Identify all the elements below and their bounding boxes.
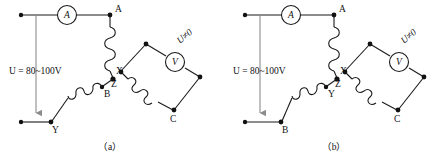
label-b-source: U = 80~100V xyxy=(233,66,286,76)
terminal-bottom-a xyxy=(19,120,23,124)
label-a-voltmeter-annotation: U≠0 xyxy=(175,27,195,46)
wire-coilby-to-y xyxy=(52,98,68,121)
wire-diamond-right-to-c-a xyxy=(174,77,200,110)
caption-b: （b） xyxy=(322,141,347,152)
node-a-c xyxy=(172,108,177,113)
wire-coilzc-to-c-a xyxy=(158,102,173,110)
wire-diamond-top-to-volt-b xyxy=(370,44,390,56)
node-a-phase-a xyxy=(108,13,113,18)
figure-canvas: A xyxy=(0,0,447,159)
label-b-x: X xyxy=(340,66,347,76)
coil-z-c xyxy=(128,78,152,105)
label-a-c: C xyxy=(170,114,176,124)
node-a-y xyxy=(49,120,54,125)
label-a-x: X xyxy=(116,66,123,76)
node-a-diamond-right xyxy=(198,75,203,80)
label-b-z: Z xyxy=(335,79,341,89)
terminal-top-a xyxy=(19,13,23,17)
label-a-y: Y xyxy=(52,125,59,135)
wire-diamond-topleft-a xyxy=(121,44,146,71)
circuit-diagram: A xyxy=(0,0,447,159)
label-b-y: Y xyxy=(328,89,335,99)
label-a-b: B xyxy=(104,89,110,99)
label-b-voltmeter-annotation: U≠0 xyxy=(399,27,419,46)
node-b-phase-a xyxy=(332,13,337,18)
wire-diamond-right-to-c-b xyxy=(398,77,424,110)
coil-y-b xyxy=(292,83,326,99)
wire-coilzc-to-c-b xyxy=(382,102,397,110)
wire-coilyb-to-b xyxy=(282,98,292,121)
coil-z-c-b xyxy=(352,78,376,105)
node-b-diamond-top xyxy=(368,42,373,47)
label-a-source: U = 80~100V xyxy=(9,66,62,76)
coil-a-x xyxy=(105,27,116,71)
label-b-c: C xyxy=(394,114,400,124)
coil-a-x-b xyxy=(329,27,340,71)
coil-b-y xyxy=(68,83,102,99)
wire-volt-to-right-a xyxy=(185,68,200,77)
node-b-c xyxy=(396,108,401,113)
label-a-phase-a: A xyxy=(115,4,122,14)
node-a-diamond-top xyxy=(144,42,149,47)
wire-diamond-top-to-volt-a xyxy=(146,44,166,56)
label-b-phase-a: A xyxy=(339,4,346,14)
wire-volt-to-right-b xyxy=(409,68,424,77)
panel-b: A V xyxy=(233,4,426,152)
label-a-z: Z xyxy=(111,79,117,89)
node-b-phase-b xyxy=(279,120,284,125)
wire-diamond-topleft-b xyxy=(345,44,370,71)
node-b-diamond-right xyxy=(422,75,427,80)
terminal-top-b xyxy=(243,13,247,17)
panel-a: A xyxy=(9,4,202,152)
ammeter-label-b: A xyxy=(287,10,294,20)
caption-a: （a） xyxy=(98,141,122,152)
ammeter-label-a: A xyxy=(63,10,70,20)
label-b-phase-b: B xyxy=(282,125,288,135)
terminal-bottom-b xyxy=(243,120,247,124)
